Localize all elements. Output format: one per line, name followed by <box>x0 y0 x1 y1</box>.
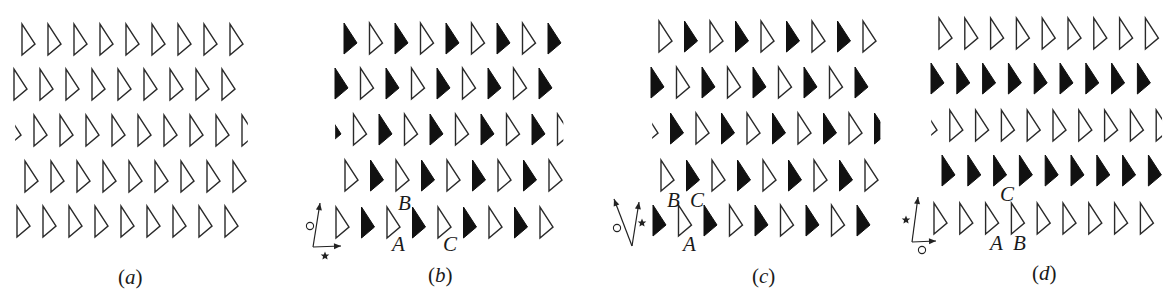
outline-triangle <box>779 67 792 98</box>
filled-triangle <box>1086 63 1099 94</box>
filled-triangle <box>685 21 698 52</box>
outline-triangle <box>405 114 418 145</box>
outline-triangle <box>865 160 878 191</box>
filled-triangle <box>738 160 751 191</box>
outline-triangle <box>204 24 217 55</box>
arrowhead-icon <box>929 238 936 244</box>
outline-triangle <box>170 69 183 100</box>
filled-triangle <box>532 114 545 145</box>
outline-triangle <box>812 21 825 52</box>
filled-triangle <box>722 113 735 144</box>
filled-triangle <box>335 68 348 99</box>
filled-triangle <box>736 21 749 52</box>
filled-triangle <box>687 160 700 191</box>
outline-triangle <box>34 115 47 146</box>
lattice-row <box>25 161 246 192</box>
panel-caption: (d) <box>1032 261 1057 285</box>
outline-triangle <box>523 23 536 54</box>
filled-triangle <box>1097 155 1110 186</box>
star-symbol-icon <box>902 216 911 224</box>
outline-triangle <box>233 161 246 192</box>
outline-triangle <box>1053 110 1066 141</box>
filled-triangle <box>787 21 800 52</box>
outline-triangle <box>645 113 658 144</box>
filled-triangle <box>1019 155 1032 186</box>
filled-triangle <box>804 67 817 98</box>
panel-caption: (b) <box>428 263 453 287</box>
circle-symbol-icon <box>306 222 313 229</box>
outline-triangle <box>934 203 947 234</box>
filled-triangle <box>481 114 494 145</box>
star-symbol-icon <box>321 252 330 260</box>
outline-triangle <box>1037 203 1050 234</box>
filled-triangle <box>840 160 853 191</box>
outline-triangle <box>118 69 131 100</box>
outline-triangle <box>199 206 212 237</box>
outline-triangle <box>863 21 876 52</box>
outline-triangle <box>164 115 177 146</box>
filled-triangle <box>838 21 851 52</box>
outline-triangle <box>361 68 374 99</box>
outline-triangle <box>1016 18 1029 49</box>
outline-triangle <box>489 207 502 238</box>
outline-triangle <box>173 206 186 237</box>
outline-triangle <box>447 160 460 191</box>
outline-triangle <box>8 115 21 146</box>
outline-triangle <box>761 21 774 52</box>
filled-triangle <box>430 114 443 145</box>
filled-triangle <box>1148 155 1161 186</box>
point-label-c: C <box>1000 182 1015 206</box>
outline-triangle <box>74 24 87 55</box>
outline-triangle <box>558 114 571 145</box>
outline-triangle <box>103 161 116 192</box>
filled-triangle <box>651 67 664 98</box>
filled-triangle <box>395 23 408 54</box>
panel-caption: (a) <box>118 265 143 289</box>
outline-triangle <box>178 24 191 55</box>
outline-triangle <box>242 115 255 146</box>
lattice-row <box>942 155 1161 186</box>
lattice-row <box>344 23 561 54</box>
outline-triangle <box>960 203 973 234</box>
filled-triangle <box>413 207 426 238</box>
point-label-b: B <box>1013 231 1026 255</box>
outline-triangle <box>1130 110 1143 141</box>
outline-triangle <box>1063 203 1076 234</box>
outline-triangle <box>48 24 61 55</box>
outline-triangle <box>126 24 139 55</box>
outline-triangle <box>728 67 741 98</box>
lattice-row <box>651 67 868 98</box>
filled-triangle <box>386 68 399 99</box>
outline-triangle <box>51 161 64 192</box>
outline-triangle <box>1156 110 1169 141</box>
outline-triangle <box>129 161 142 192</box>
outline-triangle <box>196 69 209 100</box>
lattice-row <box>328 114 571 145</box>
outline-triangle <box>22 24 35 55</box>
outline-triangle <box>421 23 434 54</box>
point-label-a: A <box>390 232 405 256</box>
lattice-row <box>661 160 878 191</box>
filled-triangle <box>702 67 715 98</box>
arrowhead-icon <box>316 203 322 210</box>
filled-triangle <box>753 67 766 98</box>
outline-triangle <box>456 114 469 145</box>
filled-triangle <box>755 205 768 236</box>
lattice-row <box>924 110 1169 141</box>
outline-triangle <box>222 69 235 100</box>
filled-triangle <box>931 63 944 94</box>
filled-triangle <box>548 23 561 54</box>
outline-triangle <box>86 115 99 146</box>
outline-triangle <box>60 115 73 146</box>
outline-triangle <box>939 18 952 49</box>
outline-triangle <box>747 113 760 144</box>
lattice-row <box>931 63 1150 94</box>
outline-triangle <box>986 203 999 234</box>
panel-caption: (c) <box>752 264 775 288</box>
outline-triangle <box>95 206 108 237</box>
filled-triangle <box>789 160 802 191</box>
circle-symbol-icon <box>918 246 925 253</box>
outline-triangle <box>345 160 358 191</box>
outline-triangle <box>1145 18 1158 49</box>
outline-triangle <box>1105 110 1118 141</box>
